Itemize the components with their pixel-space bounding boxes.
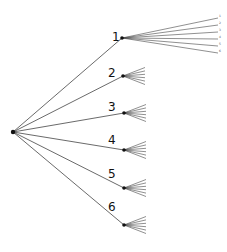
branch-label: 4 — [108, 133, 116, 147]
sub-branch-label: 6 — [219, 49, 221, 53]
sub-branch-line — [122, 38, 218, 53]
branch-label: 3 — [108, 100, 116, 114]
branch-node — [122, 111, 126, 115]
tree-diagram: 123456123456 — [0, 0, 227, 252]
branch-label: 5 — [108, 167, 116, 181]
branch-line — [13, 113, 124, 132]
branch-node — [122, 148, 126, 152]
branch-node — [122, 223, 126, 227]
sub-branch-label: 3 — [219, 28, 221, 32]
branch-label: 2 — [108, 66, 116, 80]
branch-label: 6 — [108, 200, 116, 214]
sub-branch-line — [122, 38, 218, 46]
branch-label: 1 — [112, 30, 120, 44]
branch-node — [122, 186, 126, 190]
sub-branch-label: 2 — [219, 21, 221, 25]
sub-branch-label: 1 — [219, 14, 221, 18]
sub-branch-line — [122, 38, 218, 39]
root-node — [11, 130, 15, 134]
branch-node — [120, 36, 124, 40]
tree-svg: 123456123456 — [0, 0, 227, 252]
sub-branch-label: 5 — [219, 42, 221, 46]
sub-branch-line — [122, 25, 218, 38]
branch-node — [121, 74, 125, 78]
sub-branch-label: 4 — [219, 35, 221, 39]
